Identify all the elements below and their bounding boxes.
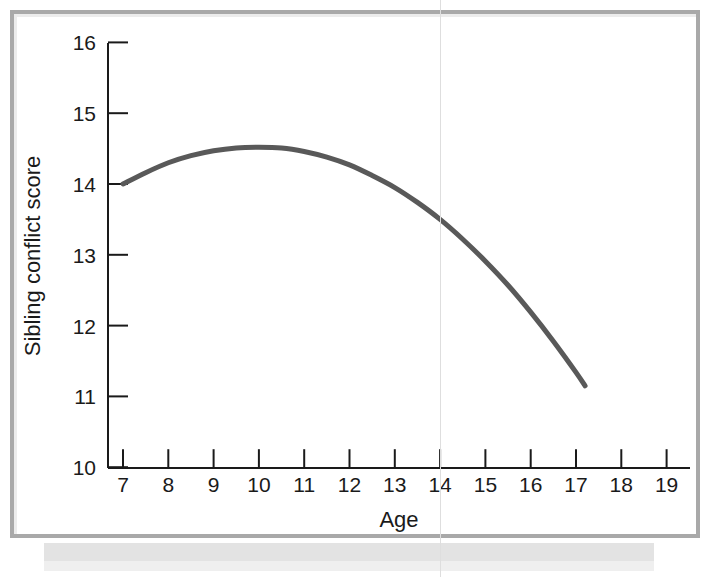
x-tick-label: 7 [117,473,129,496]
axes [108,43,690,468]
x-tick-label: 12 [338,473,361,496]
y-axis-ticks: 10111213141516 [73,31,128,479]
x-tick-label: 13 [383,473,406,496]
x-axis-title: Age [379,507,418,532]
series-line-sibling-conflict-score [123,147,585,386]
y-axis-title: Sibling conflict score [20,156,45,357]
x-tick-label: 18 [610,473,633,496]
x-tick-label: 10 [247,473,270,496]
x-tick-label: 17 [564,473,587,496]
x-tick-label: 11 [293,473,315,496]
x-tick-label: 15 [474,473,497,496]
y-tick-label: 15 [73,102,96,125]
x-tick-label: 16 [519,473,542,496]
y-tick-label: 10 [73,456,96,479]
y-tick-label: 12 [73,315,96,338]
x-tick-label: 8 [162,473,174,496]
y-tick-label: 14 [73,173,97,196]
figure-root: 10111213141516 78910111213141516171819 A… [0,0,716,577]
x-tick-label: 19 [655,473,678,496]
y-tick-label: 13 [73,244,96,267]
x-axis-ticks: 78910111213141516171819 [117,449,678,496]
scan-seam-artifact [440,0,441,577]
chart-area: 10111213141516 78910111213141516171819 A… [0,0,716,577]
line-chart: 10111213141516 78910111213141516171819 A… [0,0,716,577]
y-tick-label: 11 [74,385,96,408]
y-tick-label: 16 [73,31,96,54]
x-tick-label: 9 [208,473,220,496]
